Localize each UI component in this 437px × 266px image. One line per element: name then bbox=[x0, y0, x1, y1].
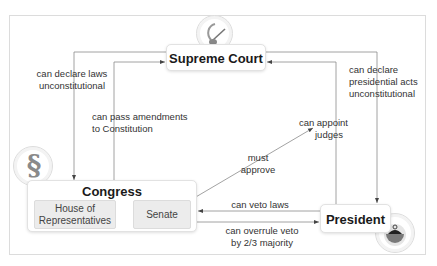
house-label-line1: House of bbox=[55, 203, 95, 215]
congress-label: Congress bbox=[28, 184, 196, 199]
label-must-approve: must approve bbox=[233, 152, 283, 176]
house-of-representatives-box[interactable]: House of Representatives bbox=[34, 200, 116, 229]
supreme-court-label: Supreme Court bbox=[167, 51, 265, 66]
label-declare-laws-unconstitutional: can declare laws unconstitutional bbox=[22, 68, 122, 92]
congress-node[interactable]: Congress House of Representatives Senate bbox=[27, 180, 197, 232]
president-node[interactable]: President bbox=[320, 204, 391, 233]
label-declare-presidential-acts: can declare presidential acts unconstitu… bbox=[349, 64, 418, 100]
senate-label: Senate bbox=[146, 209, 178, 221]
president-label: President bbox=[321, 212, 390, 227]
section-sign-glyph: § bbox=[14, 149, 54, 182]
supreme-court-node[interactable]: Supreme Court bbox=[166, 44, 266, 71]
senate-box[interactable]: Senate bbox=[133, 200, 191, 229]
label-veto-laws: can veto laws bbox=[220, 199, 300, 211]
label-appoint-judges: can appoint judges bbox=[298, 117, 348, 141]
label-overrule-veto: can overrule veto by 2/3 majority bbox=[212, 225, 312, 249]
house-label-line2: Representatives bbox=[39, 215, 111, 227]
label-pass-amendments: can pass amendments to Constitution bbox=[92, 111, 188, 135]
